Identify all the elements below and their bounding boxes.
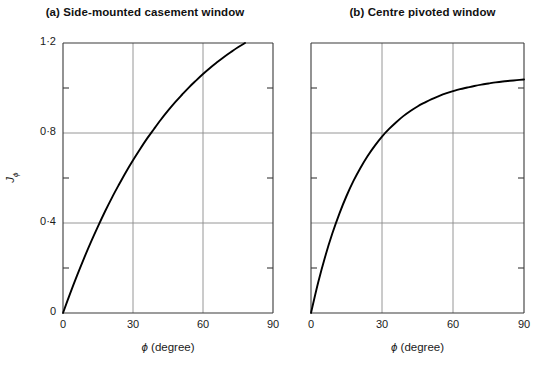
x-axis-symbol: ϕ	[391, 341, 397, 353]
y-axis-symbol: J	[4, 177, 16, 183]
curve-side-mounted-casement	[63, 43, 245, 313]
ytick-label-0.8: 0·8	[24, 125, 56, 137]
ytick-label-0: 0	[24, 305, 56, 317]
xtick-label-30: 30	[367, 318, 397, 330]
x-axis-unit: (degree)	[401, 341, 444, 353]
xtick-label-90: 90	[509, 318, 539, 330]
ytick-label-1.2: 1·2	[24, 35, 56, 47]
x-axis-title: ϕ (degree)	[63, 341, 273, 353]
curve-centre-pivoted	[311, 79, 524, 313]
xtick-label-90: 90	[258, 318, 288, 330]
panel-a: (a) Side-mounted casement window	[0, 0, 290, 375]
panel-a-ticks	[63, 88, 273, 268]
y-axis-subscript: ϕ	[11, 173, 20, 177]
panel-a-gridlines	[63, 43, 273, 313]
panel-a-frame	[63, 43, 273, 313]
panel-b-ticks	[311, 88, 524, 268]
xtick-label-0: 0	[48, 318, 78, 330]
x-axis-unit: (degree)	[151, 341, 194, 353]
xtick-label-60: 60	[438, 318, 468, 330]
xtick-label-0: 0	[296, 318, 326, 330]
figure-container: (a) Side-mounted casement window	[0, 0, 555, 375]
y-axis-title: Jϕ	[4, 153, 19, 203]
xtick-label-60: 60	[188, 318, 218, 330]
panel-b: (b) Centre pivoted window	[290, 0, 555, 375]
ytick-label-0.4: 0·4	[24, 215, 56, 227]
x-axis-symbol: ϕ	[141, 341, 147, 353]
xtick-label-30: 30	[118, 318, 148, 330]
x-axis-title: ϕ (degree)	[311, 341, 524, 353]
